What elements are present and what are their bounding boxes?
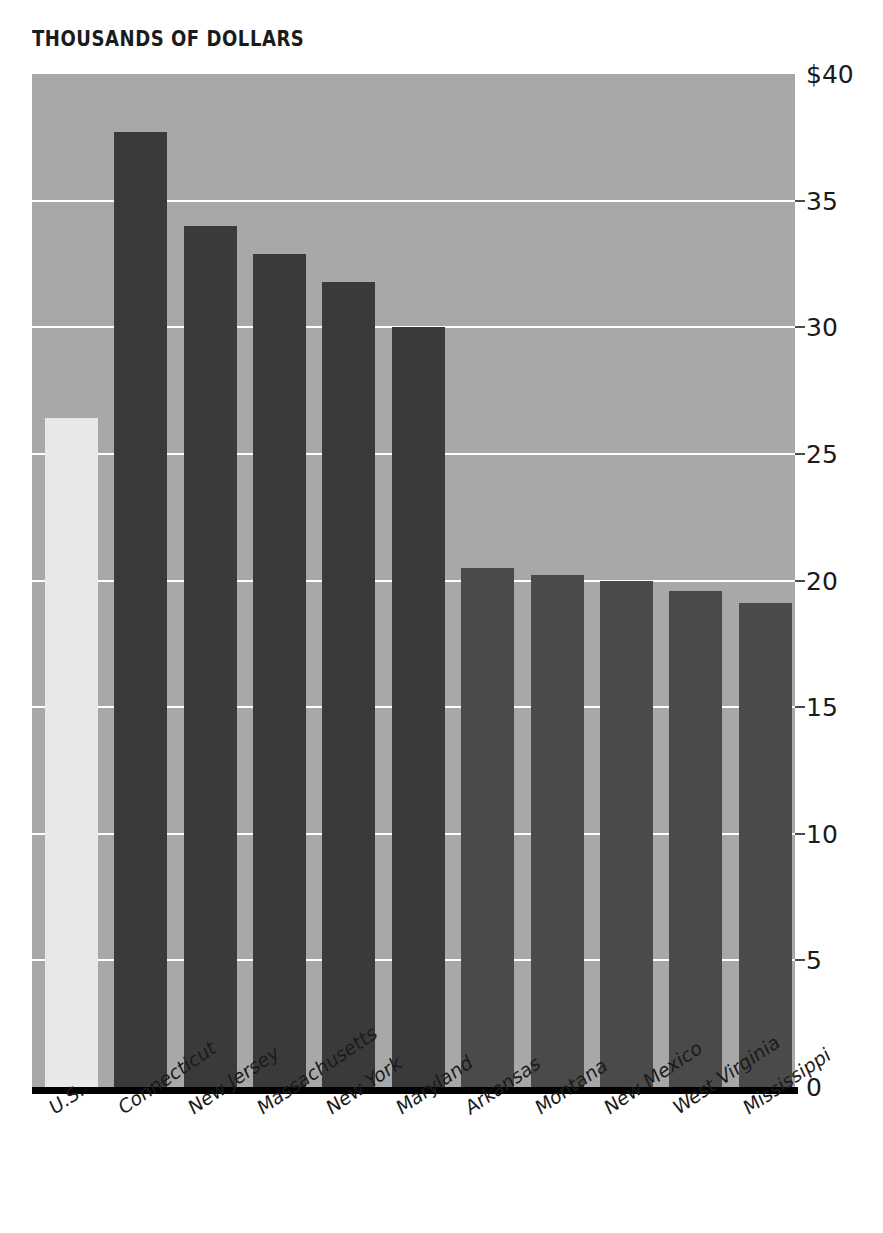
y-tick-label: 30 [806, 313, 838, 342]
bar [253, 254, 306, 1087]
chart-title: THOUSANDS OF DOLLARS [32, 27, 304, 51]
bar [461, 568, 514, 1087]
bar-chart-figure: THOUSANDS OF DOLLARS 05101520253035$40 U… [0, 0, 883, 1233]
y-tick-label: $40 [806, 60, 854, 89]
bar [184, 226, 237, 1087]
bar [45, 418, 98, 1087]
bar [531, 575, 584, 1087]
y-tick-mark [795, 200, 805, 202]
bar [114, 132, 167, 1087]
bar [600, 581, 653, 1088]
bar [322, 282, 375, 1087]
plot-area [32, 74, 795, 1087]
bar [669, 591, 722, 1087]
bar [739, 603, 792, 1087]
y-tick-label: 25 [806, 439, 838, 468]
y-tick-label: 15 [806, 693, 838, 722]
y-tick-mark [795, 706, 805, 708]
y-tick-mark [795, 326, 805, 328]
y-tick-mark [795, 833, 805, 835]
y-tick-mark [795, 453, 805, 455]
y-tick-label: 10 [806, 819, 838, 848]
bar [392, 327, 445, 1087]
y-tick-mark [795, 959, 805, 961]
y-tick-label: 35 [806, 186, 838, 215]
y-tick-mark [795, 580, 805, 582]
y-tick-label: 20 [806, 566, 838, 595]
y-tick-label: 5 [806, 946, 822, 975]
